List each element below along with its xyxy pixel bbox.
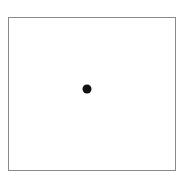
- center-dot: [83, 85, 92, 94]
- frame-box: [8, 17, 176, 171]
